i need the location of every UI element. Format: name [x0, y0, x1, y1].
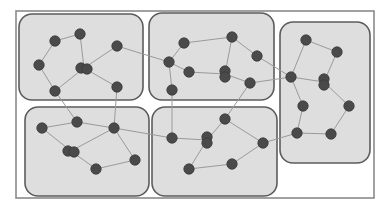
node-circle-icon [109, 123, 119, 133]
node-T[interactable] [298, 101, 308, 111]
node-S[interactable] [319, 74, 329, 90]
node-D[interactable] [76, 63, 92, 74]
node-circle-icon [286, 72, 296, 82]
node-L[interactable] [184, 67, 194, 77]
node-H[interactable] [164, 57, 174, 67]
node-a[interactable] [37, 123, 47, 133]
node-J[interactable] [227, 32, 237, 42]
node-f[interactable] [91, 164, 101, 174]
node-circle-icon [75, 29, 85, 39]
node-e[interactable] [130, 155, 140, 165]
node-circle-icon [167, 85, 177, 95]
node-circle-icon [258, 138, 268, 148]
node-circle-icon [319, 80, 329, 90]
node-K[interactable] [252, 51, 262, 61]
node-circle-icon [298, 101, 308, 111]
node-circle-icon [292, 128, 302, 138]
node-circle-icon [50, 36, 60, 46]
node-Q[interactable] [332, 47, 342, 57]
cluster-bottom-middle [152, 107, 277, 196]
node-V[interactable] [292, 128, 302, 138]
node-R[interactable] [286, 72, 296, 82]
node-circle-icon [112, 41, 122, 51]
node-circle-icon [179, 38, 189, 48]
node-circle-icon [184, 164, 194, 174]
node-circle-icon [69, 147, 79, 157]
node-circle-icon [301, 35, 311, 45]
node-i[interactable] [220, 114, 230, 124]
node-circle-icon [112, 82, 122, 92]
node-M[interactable] [220, 66, 230, 82]
node-circle-icon [82, 64, 92, 74]
node-circle-icon [72, 117, 82, 127]
node-l[interactable] [184, 164, 194, 174]
node-k[interactable] [227, 159, 237, 169]
node-C[interactable] [34, 60, 44, 70]
node-d[interactable] [63, 146, 79, 157]
node-circle-icon [344, 101, 354, 111]
node-c[interactable] [109, 123, 119, 133]
node-circle-icon [167, 133, 177, 143]
node-circle-icon [326, 129, 336, 139]
node-circle-icon [184, 67, 194, 77]
cluster-top-left [19, 14, 143, 100]
node-g[interactable] [167, 133, 177, 143]
node-circle-icon [227, 32, 237, 42]
node-circle-icon [332, 47, 342, 57]
node-I[interactable] [179, 38, 189, 48]
node-j[interactable] [258, 138, 268, 148]
node-W[interactable] [326, 129, 336, 139]
node-circle-icon [130, 155, 140, 165]
node-P[interactable] [301, 35, 311, 45]
node-b[interactable] [72, 117, 82, 127]
node-B[interactable] [75, 29, 85, 39]
node-circle-icon [37, 123, 47, 133]
node-N[interactable] [245, 78, 255, 88]
node-circle-icon [220, 72, 230, 82]
node-G[interactable] [112, 82, 122, 92]
node-circle-icon [91, 164, 101, 174]
node-O[interactable] [167, 85, 177, 95]
node-h[interactable] [202, 132, 212, 148]
node-circle-icon [34, 60, 44, 70]
node-A[interactable] [50, 36, 60, 46]
node-circle-icon [202, 138, 212, 148]
cluster-bottom-left [25, 107, 149, 196]
node-circle-icon [252, 51, 262, 61]
node-U[interactable] [344, 101, 354, 111]
network-diagram [0, 0, 389, 205]
node-F[interactable] [50, 86, 60, 96]
cluster-right [280, 22, 370, 163]
node-E[interactable] [112, 41, 122, 51]
node-circle-icon [227, 159, 237, 169]
node-circle-icon [50, 86, 60, 96]
node-circle-icon [245, 78, 255, 88]
node-circle-icon [164, 57, 174, 67]
node-circle-icon [220, 114, 230, 124]
